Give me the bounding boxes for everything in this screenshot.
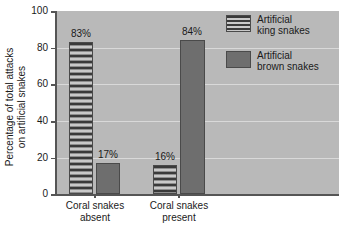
y-tick-mark-20 xyxy=(51,158,55,160)
x-axis-line xyxy=(55,194,339,196)
y-tick-mark-60 xyxy=(51,84,55,86)
y-tick-label-100: 100 xyxy=(31,6,48,16)
bar-value-brown-snakes-present: 84% xyxy=(172,27,212,37)
bar-chart: 100 80 60 40 20 0 Percentage of total at… xyxy=(0,0,339,234)
y-tick-label-60: 60 xyxy=(37,79,48,89)
bar-king-snakes-present xyxy=(153,165,177,194)
bar-brown-snakes-absent xyxy=(96,163,120,194)
y-tick-label-80: 80 xyxy=(37,43,48,53)
x-tick-mark-present xyxy=(178,194,180,198)
bar-value-brown-snakes-absent: 17% xyxy=(88,150,128,160)
y-tick-label-40: 40 xyxy=(37,116,48,126)
bar-value-king-snakes-present: 16% xyxy=(145,152,185,162)
y-tick-mark-100 xyxy=(51,11,55,13)
bar-brown-snakes-present xyxy=(180,40,205,194)
y-tick-mark-0 xyxy=(51,194,55,196)
legend: Artificial king snakes Artificial brown … xyxy=(226,14,319,86)
y-tick-mark-40 xyxy=(51,121,55,123)
y-tick-label-20: 20 xyxy=(37,153,48,163)
legend-swatch-striped-icon xyxy=(226,15,251,32)
bar-value-king-snakes-absent: 83% xyxy=(61,29,101,39)
y-axis-title: Percentage of total attacks on artificia… xyxy=(4,12,28,202)
y-axis-line xyxy=(55,11,57,195)
legend-item-king-snakes: Artificial king snakes xyxy=(226,14,319,36)
y-tick-mark-80 xyxy=(51,48,55,50)
legend-label-brown-snakes: Artificial brown snakes xyxy=(257,50,319,72)
legend-label-king-snakes: Artificial king snakes xyxy=(257,14,310,36)
legend-swatch-solid-icon xyxy=(226,51,251,68)
x-axis-label-present: Coral snakes present xyxy=(124,200,234,224)
bar-king-snakes-absent xyxy=(69,42,93,194)
x-tick-mark-absent xyxy=(94,194,96,198)
legend-item-brown-snakes: Artificial brown snakes xyxy=(226,50,319,72)
y-tick-label-0: 0 xyxy=(42,189,48,199)
